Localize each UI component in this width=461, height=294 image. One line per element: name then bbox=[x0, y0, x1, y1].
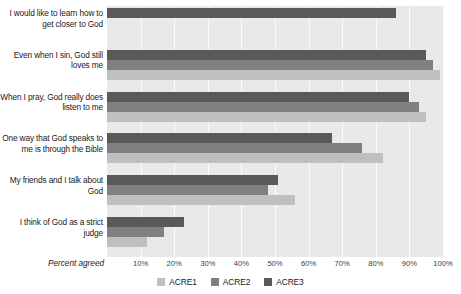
category-label: One way that God speaks tome is through … bbox=[0, 133, 103, 154]
chart-legend: ACRE1ACRE2ACRE3 bbox=[0, 277, 461, 287]
category-label-line: God bbox=[0, 186, 103, 197]
category-label: When I pray, God really doeslisten to me bbox=[0, 92, 103, 113]
category-label-line: One way that God speaks to bbox=[0, 133, 103, 144]
bar-acre3 bbox=[107, 133, 332, 143]
bar-acre2 bbox=[107, 227, 164, 237]
bar-acre3 bbox=[107, 217, 184, 227]
bar-groups bbox=[107, 6, 443, 257]
x-tick-label: 60% bbox=[301, 259, 316, 268]
bar-group bbox=[107, 90, 443, 132]
x-tick-label: 100% bbox=[433, 259, 452, 268]
bar-acre2 bbox=[107, 102, 419, 112]
bar-group bbox=[107, 6, 443, 48]
category-label-line: Even when I sin, God still bbox=[0, 50, 103, 61]
x-tick-label: 80% bbox=[368, 259, 383, 268]
gridline bbox=[443, 6, 444, 257]
bar-acre3 bbox=[107, 92, 409, 102]
bar-acre2 bbox=[107, 60, 433, 70]
category-axis-labels: I would like to learn how toget closer t… bbox=[0, 6, 103, 257]
x-axis-title: Percent agreed bbox=[48, 259, 104, 268]
x-tick-label: 40% bbox=[234, 259, 249, 268]
category-label-line: listen to me bbox=[0, 102, 103, 113]
bar-acre1 bbox=[107, 70, 440, 80]
bar-group bbox=[107, 48, 443, 90]
bar-acre2 bbox=[107, 185, 268, 195]
legend-item-acre2: ACRE2 bbox=[211, 277, 250, 287]
category-label-line: I would like to learn how to bbox=[0, 8, 103, 19]
bar-acre3 bbox=[107, 8, 396, 18]
category-label: Even when I sin, God stillloves me bbox=[0, 50, 103, 71]
category-label: I think of God as a strictjudge bbox=[0, 217, 103, 238]
category-label-line: loves me bbox=[0, 60, 103, 71]
x-tick-label: 20% bbox=[167, 259, 182, 268]
category-label-line: judge bbox=[0, 228, 103, 239]
bar-acre3 bbox=[107, 50, 426, 60]
legend-item-acre1: ACRE1 bbox=[157, 277, 196, 287]
x-tick-label: 70% bbox=[335, 259, 350, 268]
legend-swatch-icon bbox=[264, 278, 272, 286]
category-label-line: When I pray, God really does bbox=[0, 92, 103, 103]
bar-group bbox=[107, 131, 443, 173]
legend-item-acre3: ACRE3 bbox=[264, 277, 303, 287]
legend-swatch-icon bbox=[157, 278, 165, 286]
plot-area bbox=[107, 6, 443, 257]
legend-label: ACRE1 bbox=[169, 277, 196, 287]
x-tick-label: 90% bbox=[402, 259, 417, 268]
category-label-line: get closer to God bbox=[0, 19, 103, 30]
x-tick-label: 30% bbox=[200, 259, 215, 268]
category-label: I would like to learn how toget closer t… bbox=[0, 8, 103, 29]
bar-chart: I would like to learn how toget closer t… bbox=[0, 0, 461, 294]
bar-acre1 bbox=[107, 153, 383, 163]
bar-acre1 bbox=[107, 237, 147, 247]
bar-acre3 bbox=[107, 175, 278, 185]
bar-group bbox=[107, 173, 443, 215]
legend-swatch-icon bbox=[211, 278, 219, 286]
x-axis-ticks: 10%20%30%40%50%60%70%80%90%100% bbox=[107, 259, 443, 273]
bar-group bbox=[107, 215, 443, 257]
x-tick-label: 50% bbox=[267, 259, 282, 268]
bar-acre1 bbox=[107, 112, 426, 122]
legend-label: ACRE3 bbox=[276, 277, 303, 287]
bar-acre1 bbox=[107, 195, 295, 205]
category-label-line: I think of God as a strict bbox=[0, 217, 103, 228]
x-tick-label: 10% bbox=[133, 259, 148, 268]
category-label-line: My friends and I talk about bbox=[0, 175, 103, 186]
legend-label: ACRE2 bbox=[223, 277, 250, 287]
category-label: My friends and I talk aboutGod bbox=[0, 175, 103, 196]
category-label-line: me is through the Bible bbox=[0, 144, 103, 155]
bar-acre2 bbox=[107, 143, 362, 153]
